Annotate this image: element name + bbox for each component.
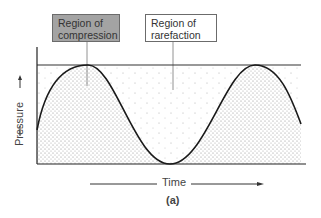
- rarefaction-label-box: Region of rarefaction: [145, 14, 217, 42]
- pressure-arrowhead-icon: [18, 75, 22, 80]
- compression-label-box: Region of compression: [52, 14, 120, 42]
- rarefaction-label: Region of rarefaction: [151, 17, 201, 41]
- y-axis-label: Pressure: [13, 86, 25, 146]
- time-arrowhead-icon: [257, 182, 264, 186]
- x-axis-label: Time: [162, 176, 186, 188]
- figure-tag: (a): [166, 194, 179, 206]
- compression-label: Region of compression: [58, 17, 118, 41]
